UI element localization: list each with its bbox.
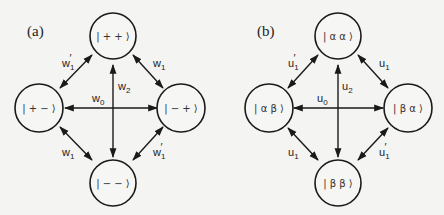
panel-label-b: (b) <box>257 23 275 40</box>
node-left-b: | α β ⟩ <box>245 84 293 132</box>
node-label: | − + ⟩ <box>164 103 198 115</box>
node-right-b: | β α ⟩ <box>384 84 432 132</box>
node-label: | β α ⟩ <box>393 103 423 115</box>
panel-label-a: (a) <box>27 23 44 40</box>
edge-label-top-right-a: w1 <box>152 57 166 72</box>
panel-b: (b) | α α ⟩ | α β ⟩ | β α ⟩ | β β ⟩ u1′ … <box>245 13 432 206</box>
node-label: | − − ⟩ <box>96 178 130 190</box>
diagram-canvas: (a) | + + ⟩ | + − ⟩ | − + ⟩ | − − ⟩ w1′ … <box>0 0 444 215</box>
edge-label-left-right-b: u0 <box>317 92 328 107</box>
node-bottom-a: | − − ⟩ <box>90 160 136 206</box>
edge-label-top-left-a: w1′ <box>61 52 75 72</box>
node-top-b: | α α ⟩ <box>315 13 361 59</box>
node-label: | β β ⟩ <box>323 178 353 190</box>
node-label: | + + ⟩ <box>96 31 130 43</box>
edge-label-left-bottom-a: w1 <box>61 146 75 161</box>
edge-label-left-bottom-b: u1 <box>288 146 299 161</box>
edge-label-top-bottom-a: w2 <box>117 80 131 95</box>
edge-label-top-bottom-b: u2 <box>342 80 353 95</box>
edge-label-top-right-b: u1 <box>379 57 390 72</box>
edge-label-top-left-b: u1′ <box>288 52 299 72</box>
panel-a: (a) | + + ⟩ | + − ⟩ | − + ⟩ | − − ⟩ w1′ … <box>15 13 205 206</box>
node-top-a: | + + ⟩ <box>90 13 136 59</box>
node-label: | α α ⟩ <box>323 31 353 43</box>
edge-label-right-bottom-b: u1′ <box>379 141 390 161</box>
node-label: | + − ⟩ <box>22 103 56 115</box>
node-label: | α β ⟩ <box>254 103 284 115</box>
edge-label-right-bottom-a: w1′ <box>152 141 166 161</box>
node-right-a: | − + ⟩ <box>157 84 205 132</box>
node-left-a: | + − ⟩ <box>15 84 63 132</box>
edge-label-left-right-a: w0 <box>91 92 105 107</box>
node-bottom-b: | β β ⟩ <box>315 160 361 206</box>
